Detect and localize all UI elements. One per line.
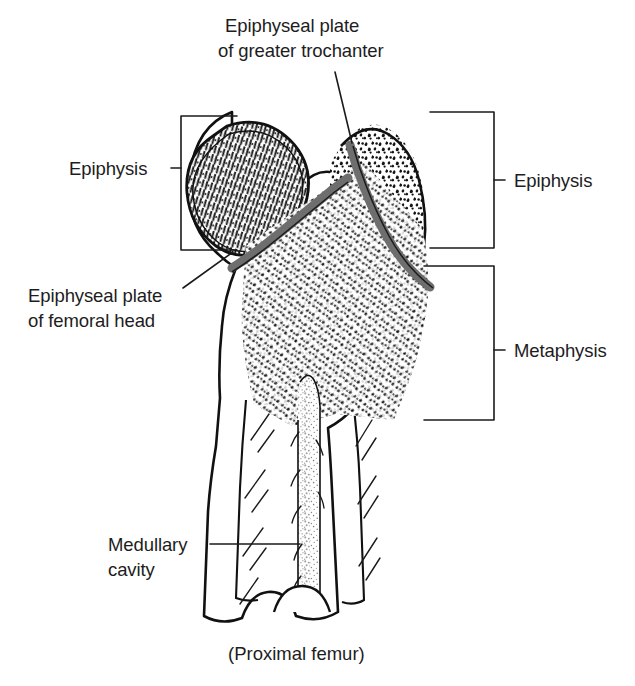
femur-diagram-svg: Epiphyseal plate of greater trochanter E… [0, 0, 635, 686]
label-epiphysis-left: Epiphysis [69, 158, 147, 179]
label-trochanter-plate-line1: Epiphyseal plate [225, 15, 359, 36]
femur-diagram-figure: Epiphyseal plate of greater trochanter E… [0, 0, 635, 686]
label-epiphysis-right: Epiphysis [514, 170, 592, 191]
label-trochanter-plate-line2: of greater trochanter [218, 40, 384, 61]
figure-caption: (Proximal femur) [228, 643, 365, 664]
label-femoral-head-plate-line2: of femoral head [28, 310, 155, 331]
label-femoral-head-plate-line1: Epiphyseal plate [28, 285, 162, 306]
label-medullary-cavity-line2: cavity [108, 559, 156, 580]
label-metaphysis-right: Metaphysis [514, 340, 607, 361]
label-medullary-cavity-line1: Medullary [108, 534, 188, 555]
